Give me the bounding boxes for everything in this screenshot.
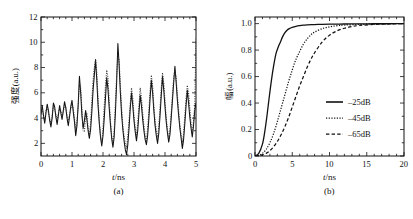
- x-tick-label: 20: [400, 160, 409, 169]
- x-tick-label: 0: [253, 160, 257, 169]
- x-tick-label: 0: [39, 160, 43, 169]
- panel-b: 幅(a.u.) t/ns (b) –25dB–45dB–65dB 0510152…: [206, 0, 413, 219]
- x-tick-label: 5: [290, 160, 294, 169]
- series-trace-solid: [41, 44, 196, 155]
- panel-a-plot: [0, 0, 206, 219]
- y-tick-label: 0: [248, 152, 252, 161]
- panel-b-caption: (b): [324, 186, 335, 196]
- figure-container: 强度(a.u.) t/ns (a) 01234524681012 幅(a.u.)…: [0, 0, 413, 219]
- y-tick-label: 6: [34, 88, 38, 97]
- y-tick-label: 0.6: [241, 72, 252, 81]
- x-tick-label: 2: [101, 160, 105, 169]
- legend-swatch-solid: [326, 98, 344, 106]
- x-tick-label: 10: [325, 160, 334, 169]
- x-tick-label: 4: [163, 160, 167, 169]
- legend-swatch-dotted: [326, 114, 344, 122]
- legend-swatch-dashed: [326, 130, 344, 138]
- y-tick-label: 8: [34, 63, 38, 72]
- y-tick-label: 12: [29, 13, 38, 22]
- y-tick-label: 0.4: [241, 99, 252, 108]
- y-tick-label: 0.8: [241, 46, 252, 55]
- panel-a: 强度(a.u.) t/ns (a) 01234524681012: [0, 0, 206, 219]
- legend-item: –45dB: [348, 113, 371, 123]
- y-tick-label: 10: [29, 38, 38, 47]
- y-tick-label: 4: [34, 114, 38, 123]
- legend-item: –25dB: [348, 97, 371, 107]
- panel-b-plot: [206, 0, 413, 219]
- x-tick-label: 15: [362, 160, 371, 169]
- panel-a-caption: (a): [114, 186, 124, 196]
- x-tick-label: 1: [70, 160, 74, 169]
- panel-b-ylabel: 幅(a.u.): [225, 73, 234, 100]
- y-tick-label: 2: [34, 139, 38, 148]
- panel-a-xlabel: t/ns: [112, 172, 125, 182]
- panel-a-ylabel: 强度(a.u.): [11, 68, 20, 104]
- y-tick-label: 1.0: [241, 19, 252, 28]
- panel-b-xlabel: t/ns: [323, 172, 336, 182]
- x-tick-label: 5: [194, 160, 198, 169]
- legend-item: –65dB: [348, 129, 371, 139]
- x-tick-label: 3: [132, 160, 136, 169]
- y-tick-label: 0.2: [241, 125, 252, 134]
